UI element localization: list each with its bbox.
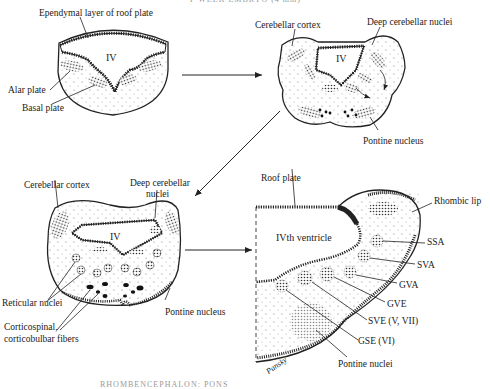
panel3-deep-label-1: Deep cerebellar: [130, 178, 190, 189]
panel1-alar-label: Alar plate: [8, 85, 46, 96]
panel4-gse-label: GSE (VI): [358, 336, 395, 347]
footer-caption-cut: RHOMBENCEPHALON: PONS: [100, 380, 228, 389]
panel1-ventricle-label: IV: [106, 52, 117, 63]
panel2-pontine-label: Pontine nucleus: [363, 136, 423, 147]
panel3-deep-label-2: nuclei: [146, 189, 169, 200]
panel3-reticular-label: Reticular nuclei: [2, 298, 62, 309]
panel2-deep-label: Deep cerebellar nuclei: [367, 17, 452, 28]
panel1-section: [50, 17, 168, 115]
panel2-cortex-label: Cerebellar cortex: [255, 20, 321, 31]
panel4-ventricle-label: IVth ventricle: [276, 232, 332, 243]
panel4-roof-label: Roof plate: [261, 173, 301, 184]
panel1-basal-label: Basal plate: [22, 103, 64, 114]
panel4-ssa-label: SSA: [427, 237, 444, 248]
panel3-cortex-label: Cerebellar cortex: [24, 180, 90, 191]
panel3-cortico-label-1: Corticospinal,: [4, 322, 58, 333]
panel4-gva-label: GVA: [399, 280, 418, 291]
panel3-cortico-label-2: corticobulbar fibers: [4, 334, 79, 345]
panel4-gve-label: GVE: [387, 299, 407, 310]
panel2-section: [278, 27, 405, 130]
panel3-pontine-label: Pontine nucleus: [165, 307, 225, 318]
header-caption-cut: F WEEK EMBRYO (4 mm): [190, 0, 301, 4]
panel4-sve-label: SVE (V, VII): [368, 316, 418, 327]
panel4-sva-label: SVA: [417, 260, 435, 271]
panel1-roof-label: Ependymal layer of roof plate: [39, 8, 153, 19]
panel3-section: [46, 180, 182, 330]
panel4-section: [256, 169, 432, 362]
panel3-ventricle-label: IV: [110, 231, 121, 242]
panel4-pontine-label: Pontine nuclei: [338, 359, 393, 370]
panel4-rhombic-label: Rhombic lip: [434, 196, 481, 207]
panel2-ventricle-label: IV: [336, 53, 347, 64]
